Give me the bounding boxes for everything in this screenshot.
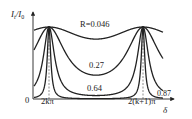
label-r-064: 0.64 <box>87 83 103 93</box>
x-tick-2k1pi: 2(k+1)π <box>128 96 156 106</box>
label-r-027: 0.27 <box>89 60 104 70</box>
label-r-0046: R=0.046 <box>80 19 110 29</box>
origin-label: 0 <box>25 95 29 105</box>
airy-transmission-diagram: It/I0 0 2kπ 2(k+1)π δ R=0.046 0.27 0.64 … <box>0 0 192 119</box>
y-axis-label: It/I0 <box>10 9 24 20</box>
x-tick-2kpi: 2kπ <box>41 96 55 106</box>
x-axis-label: δ <box>163 105 168 115</box>
label-r-087: 0.87 <box>157 89 171 98</box>
diagram-canvas: It/I0 0 2kπ 2(k+1)π δ R=0.046 0.27 0.64 … <box>0 0 192 119</box>
